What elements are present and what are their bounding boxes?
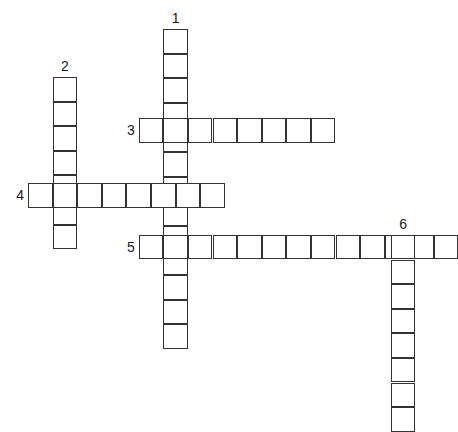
crossword-cell[interactable] xyxy=(53,102,78,127)
crossword-cell[interactable] xyxy=(77,183,102,208)
crossword-cell[interactable] xyxy=(163,275,188,300)
clue-number-3: 3 xyxy=(121,123,135,137)
crossword-cell[interactable] xyxy=(163,324,188,349)
crossword-cell[interactable] xyxy=(311,235,336,260)
crossword-cell[interactable] xyxy=(102,183,127,208)
crossword-cell[interactable] xyxy=(28,183,53,208)
crossword-cell[interactable] xyxy=(391,309,416,334)
crossword-cell[interactable] xyxy=(163,78,188,103)
crossword-cell[interactable] xyxy=(434,235,458,260)
crossword-cell[interactable] xyxy=(188,118,213,143)
crossword-cell[interactable] xyxy=(391,235,416,260)
crossword-cell[interactable] xyxy=(360,235,385,260)
crossword-cell[interactable] xyxy=(53,151,78,176)
crossword-cell[interactable] xyxy=(213,235,238,260)
clue-number-4: 4 xyxy=(10,188,24,202)
crossword-cell[interactable] xyxy=(53,225,78,250)
crossword-cell[interactable] xyxy=(262,118,287,143)
clue-number-6: 6 xyxy=(389,217,418,231)
crossword-cell[interactable] xyxy=(139,118,164,143)
clue-number-5: 5 xyxy=(121,240,135,254)
crossword-cell[interactable] xyxy=(213,118,238,143)
crossword-cell[interactable] xyxy=(53,126,78,151)
crossword-cell[interactable] xyxy=(391,333,416,358)
clue-number-1: 1 xyxy=(161,11,190,25)
clue-number-2: 2 xyxy=(51,59,80,73)
crossword-cell[interactable] xyxy=(163,300,188,325)
crossword-cell[interactable] xyxy=(336,235,361,260)
crossword-cell[interactable] xyxy=(311,118,336,143)
crossword-cell[interactable] xyxy=(391,358,416,383)
crossword-cell[interactable] xyxy=(237,235,262,260)
crossword-cell[interactable] xyxy=(286,118,311,143)
crossword-cell[interactable] xyxy=(262,235,287,260)
crossword-cell[interactable] xyxy=(391,260,416,285)
crossword-cell[interactable] xyxy=(188,235,213,260)
crossword-cell[interactable] xyxy=(163,235,188,260)
crossword-cell[interactable] xyxy=(286,235,311,260)
crossword-cell[interactable] xyxy=(163,54,188,79)
crossword-cell[interactable] xyxy=(200,183,225,208)
crossword-cell[interactable] xyxy=(176,183,201,208)
crossword-cell[interactable] xyxy=(391,284,416,309)
crossword-cell[interactable] xyxy=(391,407,416,432)
crossword-cell[interactable] xyxy=(163,118,188,143)
crossword-cell[interactable] xyxy=(53,183,78,208)
crossword-cell[interactable] xyxy=(391,383,416,408)
crossword-cell[interactable] xyxy=(126,183,151,208)
crossword-cell[interactable] xyxy=(163,152,188,177)
crossword-cell[interactable] xyxy=(139,235,164,260)
crossword-cell[interactable] xyxy=(53,77,78,102)
crossword-cell[interactable] xyxy=(163,29,188,54)
crossword-cell[interactable] xyxy=(237,118,262,143)
crossword-cell[interactable] xyxy=(151,183,176,208)
